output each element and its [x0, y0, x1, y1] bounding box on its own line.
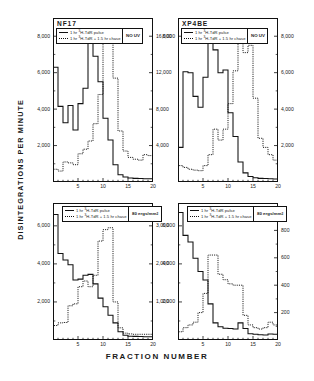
- y-tick-label-right: 400: [281, 283, 313, 288]
- plot-svg: [178, 203, 278, 340]
- legend-row-pulse: 1 hr 3H-TdR pulse: [184, 30, 245, 35]
- x-tick-label: 20: [145, 184, 161, 189]
- y-tick-label-right: 600: [281, 255, 313, 260]
- y-tick-label-left: 4,000: [143, 261, 175, 266]
- panel-bottom-right: 1 hr 3H-TdR pulse 1 hr 3H-TdR + 1.5 hr c…: [178, 203, 278, 340]
- legend-label-pulse: 1 hr 3H-TdR pulse: [195, 30, 229, 35]
- legend-swatch-solid-icon: [190, 210, 199, 211]
- y-tick-label-left: 8,000: [143, 34, 175, 39]
- x-tick-label: 10: [95, 342, 111, 347]
- tick-marks: [53, 226, 153, 340]
- legend-entries: 1 hr 3H-TdR pulse 1 hr 3H-TdR + 1.5 hr c…: [63, 207, 128, 221]
- panel-legend: 1 hr 3H-TdR pulse 1 hr 3H-TdR + 1.5 hr c…: [62, 206, 162, 222]
- legend-row-chase: 1 hr 3H-TdR + 1.5 hr chase: [59, 36, 120, 41]
- y-tick-label-left: 8,000: [18, 34, 50, 39]
- y-tick-label-left: 4,000: [18, 107, 50, 112]
- series-group: [53, 32, 153, 182]
- panel-condition-badge: 80 ergs/mm2: [253, 207, 285, 221]
- series-chase-line: [53, 228, 153, 340]
- x-tick-label: 20: [270, 184, 286, 189]
- y-tick-label-right: 4,000: [281, 107, 313, 112]
- legend-label-pulse: 1 hr 3H-TdR pulse: [70, 30, 104, 35]
- x-tick-label: 20: [145, 342, 161, 347]
- plot-svg: [53, 203, 153, 340]
- series-chase-line: [178, 255, 278, 340]
- x-tick-label: 20: [270, 342, 286, 347]
- legend-label-chase: 1 hr 3H-TdR + 1.5 hr chase: [201, 214, 251, 219]
- legend-row-chase: 1 hr 3H-TdR + 1.5 hr chase: [184, 36, 245, 41]
- series-pulse-line: [178, 44, 278, 182]
- legend-swatch-dotted-icon: [59, 38, 68, 39]
- legend-row-chase: 1 hr 3H-TdR + 1.5 hr chase: [65, 214, 126, 219]
- y-tick-label-right: 200: [281, 310, 313, 315]
- legend-row-pulse: 1 hr 3H-TdR pulse: [190, 208, 251, 213]
- panel-title: XP4BE: [182, 20, 208, 27]
- y-tick-label-left: 6,000: [18, 223, 50, 228]
- legend-label-pulse: 1 hr 3H-TdR pulse: [76, 208, 110, 213]
- panel-condition-badge: 80 ergs/mm2: [128, 207, 160, 221]
- x-tick-label: 15: [245, 184, 261, 189]
- y-tick-label-right: 8,000: [281, 34, 313, 39]
- series-group: [178, 213, 278, 340]
- panel-condition-badge: NO UV: [247, 29, 267, 43]
- legend-label-pulse: 1 hr 3H-TdR pulse: [201, 208, 235, 213]
- x-tick-label: 15: [120, 342, 136, 347]
- panel-condition-badge: NO UV: [122, 29, 142, 43]
- panel-plot-area: [53, 203, 153, 340]
- y-tick-label-right: 6,000: [281, 70, 313, 75]
- y-tick-label-right: 4,000: [156, 143, 188, 148]
- figure-x-axis-title: FRACTION NUMBER: [0, 352, 314, 361]
- legend-label-chase: 1 hr 3H-TdR + 1.5 hr chase: [70, 36, 120, 41]
- legend-entries: 1 hr 3H-TdR pulse 1 hr 3H-TdR + 1.5 hr c…: [188, 207, 253, 221]
- legend-label-chase: 1 hr 3H-TdR + 1.5 hr chase: [76, 214, 126, 219]
- y-tick-label-left: 6,000: [143, 223, 175, 228]
- y-tick-label-left: 2,000: [143, 299, 175, 304]
- legend-row-chase: 1 hr 3H-TdR + 1.5 hr chase: [190, 214, 251, 219]
- legend-swatch-solid-icon: [59, 32, 68, 33]
- panel-top-right: XP4BE 1 hr 3H-TdR pulse 1 hr 3H-TdR + 1.…: [178, 18, 278, 182]
- legend-entries: 1 hr 3H-TdR pulse 1 hr 3H-TdR + 1.5 hr c…: [182, 29, 247, 43]
- series-group: [178, 44, 278, 182]
- legend-swatch-solid-icon: [65, 210, 74, 211]
- y-tick-label-right: 12,000: [156, 70, 188, 75]
- x-tick-label: 5: [70, 184, 86, 189]
- panel-legend: 1 hr 3H-TdR pulse 1 hr 3H-TdR + 1.5 hr c…: [181, 28, 268, 44]
- panel-legend: 1 hr 3H-TdR pulse 1 hr 3H-TdR + 1.5 hr c…: [187, 206, 287, 222]
- legend-row-pulse: 1 hr 3H-TdR pulse: [59, 30, 120, 35]
- x-tick-label: 15: [245, 342, 261, 347]
- panel-plot-area: [178, 203, 278, 340]
- y-tick-label-left: 2,000: [18, 299, 50, 304]
- y-tick-label-left: 6,000: [18, 70, 50, 75]
- x-tick-label: 10: [95, 184, 111, 189]
- x-tick-label: 5: [70, 342, 86, 347]
- legend-label-chase: 1 hr 3H-TdR + 1.5 hr chase: [195, 36, 245, 41]
- series-pulse-line: [178, 213, 278, 340]
- y-tick-label-right: 8,000: [156, 107, 188, 112]
- y-tick-label-right: 800: [281, 228, 313, 233]
- x-tick-label: 10: [220, 184, 236, 189]
- x-tick-label: 10: [220, 342, 236, 347]
- figure-root: DISINTEGRATIONS PER MINUTE FRACTION NUMB…: [0, 0, 314, 381]
- panel-bottom-left: 1 hr 3H-TdR pulse 1 hr 3H-TdR + 1.5 hr c…: [53, 203, 153, 340]
- panel-legend: 1 hr 3H-TdR pulse 1 hr 3H-TdR + 1.5 hr c…: [56, 28, 143, 44]
- y-tick-label-left: 2,000: [18, 143, 50, 148]
- legend-swatch-dotted-icon: [65, 216, 74, 217]
- y-tick-label-left: 4,000: [18, 261, 50, 266]
- x-tick-label: 15: [120, 184, 136, 189]
- legend-swatch-dotted-icon: [190, 216, 199, 217]
- x-tick-label: 5: [195, 342, 211, 347]
- legend-row-pulse: 1 hr 3H-TdR pulse: [65, 208, 126, 213]
- y-tick-label-right: 2,000: [281, 143, 313, 148]
- legend-entries: 1 hr 3H-TdR pulse 1 hr 3H-TdR + 1.5 hr c…: [57, 29, 122, 43]
- series-group: [53, 214, 153, 340]
- panel-top-left: NF17 1 hr 3H-TdR pulse 1 hr 3H-TdR + 1.5…: [53, 18, 153, 182]
- x-tick-label: 5: [195, 184, 211, 189]
- panel-title: NF17: [57, 20, 77, 27]
